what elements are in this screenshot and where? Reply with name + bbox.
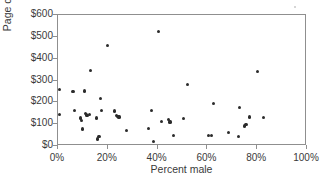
data-point [182, 117, 185, 120]
data-point [157, 30, 160, 33]
data-point [95, 116, 98, 119]
data-point [81, 127, 84, 130]
x-axis-title: Percent male [57, 163, 306, 176]
data-point [71, 90, 74, 93]
plot-area [58, 15, 305, 144]
data-point [73, 109, 76, 112]
data-point [83, 89, 86, 92]
y-tick-label: $400 [5, 53, 53, 63]
y-tick-label: $200 [5, 96, 53, 106]
data-point [89, 69, 92, 72]
data-point [113, 109, 116, 112]
data-point [100, 109, 103, 112]
x-tick-mark [57, 145, 58, 149]
data-point [152, 140, 155, 143]
x-tick-label: 0% [35, 152, 79, 163]
data-point [99, 97, 102, 100]
x-tick-label: 80% [234, 152, 278, 163]
data-point [237, 135, 240, 138]
x-tick-label: 100% [284, 152, 328, 163]
x-tick-mark [306, 145, 307, 149]
scatter-chart: Page costs (thousands) $0$100$200$300$40… [0, 0, 336, 183]
x-tick-label: 20% [85, 152, 129, 163]
y-tick-label: $100 [5, 118, 53, 128]
data-point [227, 131, 230, 134]
x-tick-mark [157, 145, 158, 149]
data-point [168, 120, 171, 123]
data-point [172, 134, 175, 137]
data-point [186, 83, 189, 86]
data-point [210, 134, 213, 137]
x-tick-label: 60% [184, 152, 228, 163]
y-axis-ticks: $0$100$200$300$400$500$600 [0, 14, 53, 145]
image-speck-artifact [294, 6, 296, 8]
data-point [97, 135, 100, 138]
x-tick-mark [206, 145, 207, 149]
x-tick-mark [256, 145, 257, 149]
x-tick-mark [107, 145, 108, 149]
data-point [80, 119, 83, 122]
data-point [160, 120, 163, 123]
data-point [238, 106, 241, 109]
data-point [150, 109, 153, 112]
data-point [147, 127, 150, 130]
data-point [125, 129, 128, 132]
data-point [88, 113, 91, 116]
data-point [58, 113, 61, 116]
data-point [117, 115, 120, 118]
x-tick-label: 40% [135, 152, 179, 163]
data-point [58, 88, 61, 91]
y-tick-label: $600 [5, 9, 53, 19]
y-tick-label: $500 [5, 31, 53, 41]
y-tick-label: $0 [5, 140, 53, 150]
data-point [244, 123, 247, 126]
data-point [212, 102, 215, 105]
data-point [248, 115, 251, 118]
data-point [106, 44, 109, 47]
y-tick-label: $300 [5, 75, 53, 85]
data-point [96, 137, 99, 140]
data-point [256, 70, 259, 73]
plot-frame [57, 14, 306, 145]
data-point [262, 116, 265, 119]
x-axis-ticks: 0%20%40%60%80%100% [57, 145, 306, 165]
